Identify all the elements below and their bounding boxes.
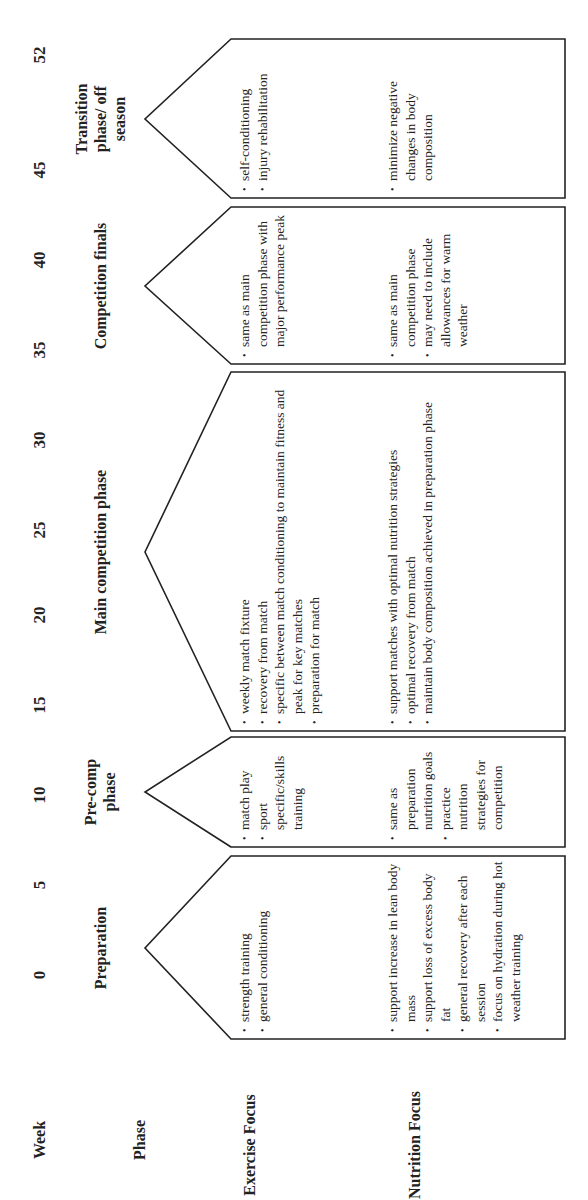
list-item: support matches with optimal nutrition s…: [384, 394, 402, 724]
exercise-list-main: weekly match fixture recovery from match…: [236, 374, 324, 724]
box-transition: [145, 39, 565, 198]
list-item: general conditioning: [254, 862, 272, 1032]
list-item: minimize negative changes in body compos…: [384, 41, 437, 191]
list-item: injury rehabilitation: [254, 41, 272, 191]
list-item: practice nutrition strategies for compet…: [437, 740, 507, 840]
exercise-list-preparation: strength training general conditioning: [236, 862, 271, 1032]
list-item: general recovery after each session: [454, 860, 489, 1032]
list-item: weekly match fixture: [236, 374, 254, 724]
list-item: same as main competition phase: [384, 209, 419, 357]
list-item: specific between match conditioning to m…: [271, 374, 306, 724]
box-main-competition: [145, 372, 565, 731]
list-item: self-conditioning: [236, 41, 254, 191]
nutrition-list-pre-comp: same as preparation nutrition goals prac…: [384, 740, 507, 840]
list-item: focus on hydration during hot weather tr…: [489, 860, 524, 1032]
list-item: match play: [236, 740, 254, 840]
list-item: support loss of excess body fat: [419, 860, 454, 1032]
list-item: strength training: [236, 862, 254, 1032]
list-item: sport specific/skills training: [254, 740, 307, 840]
exercise-list-transition: self-conditioning injury rehabilitation: [236, 41, 271, 191]
list-item: may need to include allowances for warm …: [419, 209, 472, 357]
phase-title-transition: Transition phase/ off season: [72, 74, 129, 164]
list-item: support increase in lean body mass: [384, 860, 419, 1032]
phase-title-pre-comp: Pre-comp phase: [81, 757, 119, 827]
list-item: optimal recovery from match: [402, 394, 420, 724]
nutrition-list-main: support matches with optimal nutrition s…: [384, 394, 437, 724]
nutrition-list-transition: minimize negative changes in body compos…: [384, 41, 437, 191]
phase-title-competition-finals: Competition finals: [91, 223, 110, 350]
exercise-list-competition-finals: same as main competition phase with majo…: [236, 209, 289, 357]
nutrition-list-preparation: support increase in lean body mass suppo…: [384, 860, 524, 1032]
list-item: same as main competition phase with majo…: [236, 209, 289, 357]
box-competition-finals: [145, 207, 565, 364]
list-item: recovery from match: [254, 374, 272, 724]
periodization-diagram: Week Phase Exercise Focus Nutrition Focu…: [0, 0, 588, 1200]
list-item: maintain body composition achieved in pr…: [419, 394, 437, 724]
exercise-list-pre-comp: match play sport specific/skills trainin…: [236, 740, 306, 840]
phase-title-preparation: Preparation: [91, 907, 110, 989]
phase-title-main-competition: Main competition phase: [91, 470, 110, 634]
list-item: same as preparation nutrition goals: [384, 740, 437, 840]
nutrition-list-competition-finals: same as main competition phase may need …: [384, 209, 472, 357]
list-item: preparation for match: [306, 374, 324, 724]
